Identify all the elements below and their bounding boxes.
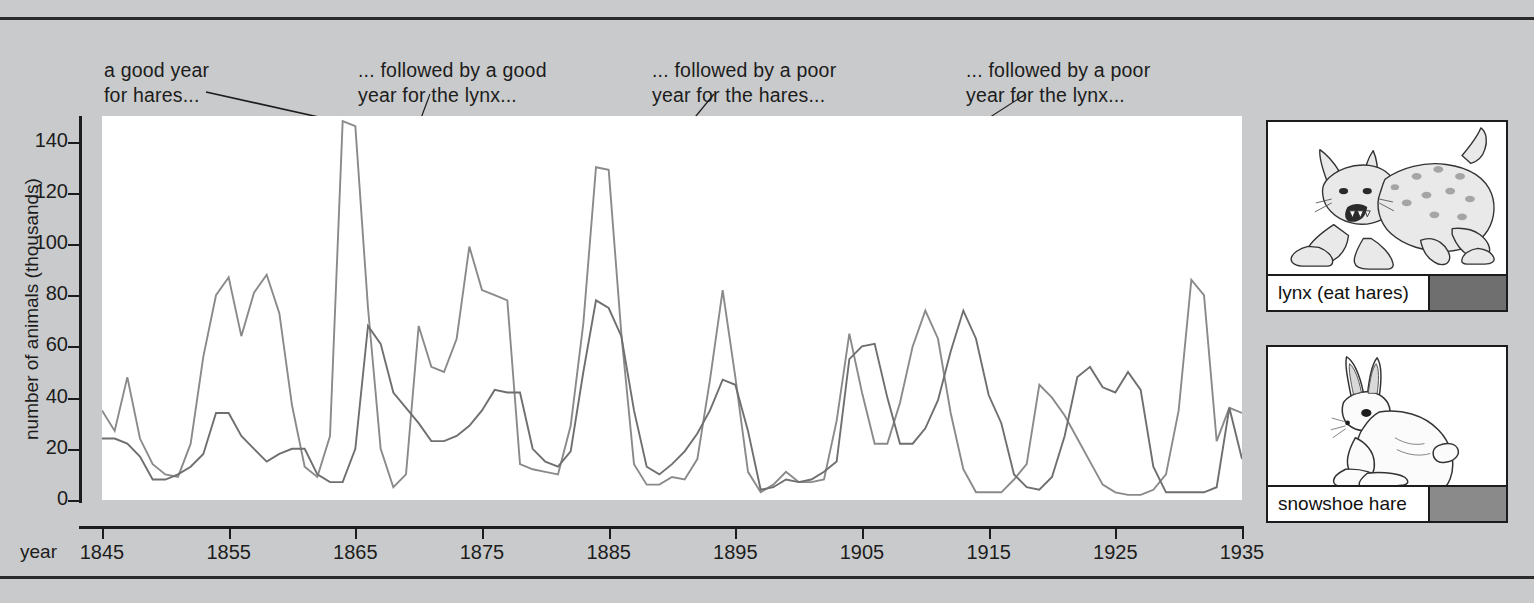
- x-tick-label: 1935: [1202, 541, 1282, 564]
- y-tick-mark: [68, 500, 82, 502]
- y-tick-mark: [68, 142, 82, 144]
- annotation-good-year-hares: a good year for hares...: [104, 58, 209, 108]
- y-tick-mark: [68, 295, 82, 297]
- x-tick-label: 1855: [189, 541, 269, 564]
- snowshoe-hare-icon: [1268, 347, 1506, 487]
- x-tick-mark: [229, 526, 231, 539]
- y-tick-label: 100: [20, 231, 68, 254]
- plot-area: [102, 116, 1242, 500]
- x-tick-mark: [102, 526, 104, 539]
- x-tick-mark: [1115, 526, 1117, 539]
- legend-footer-hare: snowshoe hare: [1268, 485, 1506, 521]
- annotation-line-2: year for the lynx...: [358, 83, 547, 108]
- y-tick-label: 80: [20, 282, 68, 305]
- annotation-line-2: for hares...: [104, 83, 209, 108]
- y-tick-label: 140: [20, 129, 68, 152]
- lynx-icon: [1268, 122, 1506, 276]
- y-tick-label: 0: [20, 487, 68, 510]
- lynx-illustration: [1268, 122, 1506, 276]
- x-tick-mark: [482, 526, 484, 539]
- hare-illustration: [1268, 347, 1506, 487]
- y-tick-mark: [68, 346, 82, 348]
- x-tick-label: 1925: [1075, 541, 1155, 564]
- page-rule-bottom: [0, 576, 1534, 579]
- annotation-line-1: ... followed by a good: [358, 58, 547, 83]
- x-tick-mark: [609, 526, 611, 539]
- legend-card-hare[interactable]: snowshoe hare: [1266, 345, 1508, 523]
- annotation-line-1: ... followed by a poor: [966, 58, 1150, 83]
- x-axis-name: year: [20, 541, 57, 563]
- x-tick-label: 1905: [822, 541, 902, 564]
- series-line-snowshoe-hare: [102, 121, 1242, 495]
- y-axis-tick-labels: 020406080100120140: [20, 20, 68, 576]
- annotation-good-year-lynx: ... followed by a good year for the lynx…: [358, 58, 547, 108]
- x-axis-tick-labels: 1845185518651875188518951905191519251935: [0, 541, 1300, 571]
- legend-label-hare: snowshoe hare: [1268, 487, 1428, 521]
- y-tick-label: 120: [20, 180, 68, 203]
- y-tick-label: 40: [20, 385, 68, 408]
- y-tick-mark: [68, 449, 82, 451]
- y-axis-line: [79, 116, 82, 503]
- x-tick-label: 1865: [315, 541, 395, 564]
- x-tick-label: 1845: [62, 541, 142, 564]
- y-tick-mark: [68, 398, 82, 400]
- x-axis-line: [79, 526, 1244, 529]
- annotation-line-2: year for the hares...: [652, 83, 836, 108]
- y-tick-mark: [68, 193, 82, 195]
- x-tick-mark: [1242, 526, 1244, 539]
- annotation-poor-year-lynx: ... followed by a poor year for the lynx…: [966, 58, 1150, 108]
- legend-label-lynx: lynx (eat hares): [1268, 276, 1428, 310]
- x-tick-mark: [862, 526, 864, 539]
- x-tick-mark: [735, 526, 737, 539]
- lynx-hare-figure: a good year for hares... ... followed by…: [0, 20, 1534, 576]
- x-tick-mark: [355, 526, 357, 539]
- y-tick-label: 60: [20, 333, 68, 356]
- x-tick-label: 1885: [569, 541, 649, 564]
- x-tick-label: 1895: [695, 541, 775, 564]
- y-tick-label: 20: [20, 436, 68, 459]
- annotation-line-1: ... followed by a poor: [652, 58, 836, 83]
- legend-swatch-lynx: [1428, 276, 1506, 310]
- legend-footer-lynx: lynx (eat hares): [1268, 274, 1506, 310]
- series-canvas: [102, 116, 1242, 500]
- y-tick-mark: [68, 244, 82, 246]
- x-tick-label: 1915: [949, 541, 1029, 564]
- annotation-poor-year-hares: ... followed by a poor year for the hare…: [652, 58, 836, 108]
- series-line-lynx: [102, 300, 1242, 492]
- legend-swatch-hare: [1428, 487, 1506, 521]
- annotation-line-2: year for the lynx...: [966, 83, 1150, 108]
- annotation-line-1: a good year: [104, 58, 209, 83]
- x-tick-label: 1875: [442, 541, 522, 564]
- x-tick-mark: [989, 526, 991, 539]
- legend-card-lynx[interactable]: lynx (eat hares): [1266, 120, 1508, 312]
